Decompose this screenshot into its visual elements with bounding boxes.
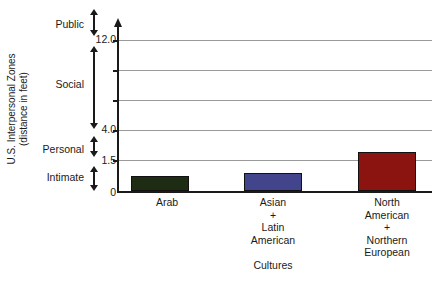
gridline (119, 40, 432, 41)
category-label-line: + (337, 221, 437, 234)
category-label-line: + (223, 209, 323, 222)
zone-label-public: Public (55, 18, 84, 30)
bar-asian-latin-american[interactable] (244, 173, 302, 191)
gridline (119, 130, 432, 131)
category-label-arab: Arab (117, 196, 217, 209)
chart-root: U.S. Interpersonal Zones (distance in fe… (0, 0, 441, 290)
y-tick-mark (113, 100, 119, 102)
y-tick-mark (113, 130, 119, 132)
gridline (119, 70, 432, 71)
category-label-line: North (337, 196, 437, 209)
y-tick-label-0: 0 (110, 187, 116, 198)
plot-area (117, 27, 432, 193)
y-axis-title-units: (distance in feet) (18, 72, 30, 146)
category-label-line: Asian (223, 196, 323, 209)
y-axis-title-main: U.S. Interpersonal Zones (6, 53, 18, 164)
zone-label-group: Public Social Personal Intimate (36, 0, 86, 205)
y-tick-mark (113, 40, 119, 42)
x-axis-line (117, 191, 432, 193)
category-label-line: Latin (223, 221, 323, 234)
category-label-line: Arab (117, 196, 217, 209)
y-tick-mark (113, 160, 119, 162)
zone-label-intimate: Intimate (47, 171, 84, 183)
gridline (119, 100, 432, 101)
x-axis-title: Cultures (223, 259, 323, 271)
category-label-line: American (337, 209, 437, 222)
bar-north-american-northern-european[interactable] (358, 152, 416, 191)
y-axis-tick-labels: 12.0 4.0 1.5 0 (84, 0, 116, 205)
category-label-asian-latin-american: Asian+LatinAmerican (223, 196, 323, 246)
zone-label-social: Social (55, 78, 84, 90)
y-tick-mark (113, 70, 119, 72)
x-axis-category-labels: Arab Asian+LatinAmerican NorthAmerican+N… (117, 196, 432, 286)
y-axis-line (117, 27, 119, 193)
bar-arab[interactable] (131, 176, 189, 191)
category-label-line: European (337, 246, 437, 259)
category-label-line: Northern (337, 234, 437, 247)
y-axis-title: U.S. Interpersonal Zones (distance in fe… (0, 18, 36, 200)
category-label-line: American (223, 234, 323, 247)
y-axis-arrowhead-icon (114, 18, 122, 27)
zone-label-personal: Personal (43, 143, 84, 155)
category-label-north-american-northern-european: NorthAmerican+NorthernEuropean (337, 196, 437, 259)
